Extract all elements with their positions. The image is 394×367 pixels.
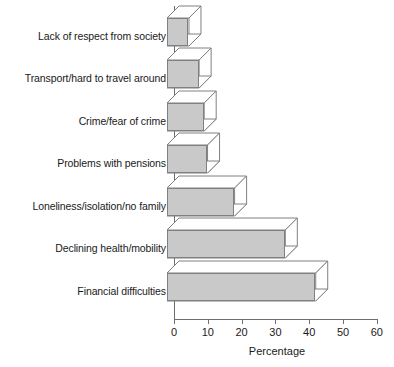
x-tick-label-0: 0 — [159, 326, 189, 338]
x-tick-10 — [208, 319, 209, 324]
x-tick-label-50: 50 — [328, 326, 358, 338]
category-label-2: Crime/fear of crime — [79, 115, 166, 127]
category-label-6: Financial difficulties — [77, 285, 166, 297]
x-tick-20 — [242, 319, 243, 324]
bar-chart: Lack of respect from society Transport/h… — [0, 0, 394, 367]
category-label-4: Loneliness/isolation/no family — [32, 200, 166, 212]
category-label-0: Lack of respect from society — [38, 30, 166, 42]
category-label-3: Problems with pensions — [57, 157, 166, 169]
x-tick-label-10: 10 — [193, 326, 223, 338]
x-axis-title: Percentage — [197, 345, 357, 358]
bar-front-face-0 — [167, 18, 189, 46]
bar-front-face-4 — [167, 188, 235, 216]
x-tick-label-40: 40 — [294, 326, 324, 338]
x-tick-label-30: 30 — [260, 326, 290, 338]
x-tick-label-20: 20 — [227, 326, 257, 338]
bar-front-face-2 — [167, 103, 204, 131]
bar-front-face-1 — [167, 60, 199, 88]
x-tick-60 — [377, 319, 378, 324]
bar-front-face-3 — [167, 145, 208, 173]
x-tick-label-60: 60 — [362, 326, 392, 338]
x-tick-30 — [275, 319, 276, 324]
category-label-1: Transport/hard to travel around — [25, 72, 166, 84]
x-tick-40 — [309, 319, 310, 324]
x-tick-50 — [343, 319, 344, 324]
bar-front-face-6 — [167, 273, 316, 301]
category-label-5: Declining health/mobility — [55, 242, 166, 254]
bar-front-face-5 — [167, 230, 285, 258]
x-tick-0 — [174, 319, 175, 324]
